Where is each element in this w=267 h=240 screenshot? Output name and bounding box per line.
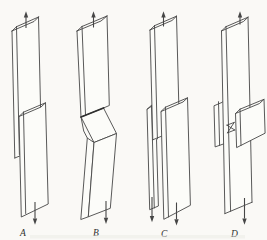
panel-d-double-strap-butt-joint: D (214, 11, 265, 238)
panel-b-scarf-joint: B (77, 11, 117, 238)
scan-smudge (30, 235, 245, 239)
panel-c-double-lap-joint: C (147, 11, 190, 238)
panel-a-lap-joint: A (12, 11, 48, 238)
joint-types-diagram: A B (0, 0, 267, 240)
joint-types-svg: A B (0, 0, 267, 240)
panel-label-a: A (19, 228, 26, 238)
